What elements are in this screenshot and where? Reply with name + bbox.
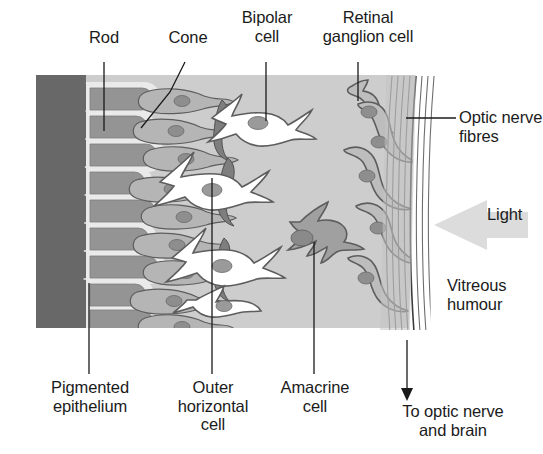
label-light: Light xyxy=(487,205,543,224)
retina-diagram: Rod Cone Bipolar cell Retinal ganglion c… xyxy=(0,0,543,454)
label-pigmented-epithelium: Pigmented epithelium xyxy=(18,378,162,415)
nerve-fibre-shading xyxy=(380,75,416,330)
label-outer-horizontal-cell: Outer horizontal cell xyxy=(162,378,264,434)
label-bipolar-cell: Bipolar cell xyxy=(222,8,312,45)
label-to-optic-nerve-and-brain: To optic nerve and brain xyxy=(369,402,537,439)
label-amacrine-cell: Amacrine cell xyxy=(266,378,364,415)
label-retinal-ganglion-cell: Retinal ganglion cell xyxy=(306,8,430,45)
label-cone: Cone xyxy=(143,28,233,47)
leader-to-optic-nerve-arrow xyxy=(401,340,413,401)
label-vitreous-humour: Vitreous humour xyxy=(447,276,537,313)
label-optic-nerve-fibres: Optic nerve fibres xyxy=(459,108,543,145)
label-rod: Rod xyxy=(62,28,146,47)
